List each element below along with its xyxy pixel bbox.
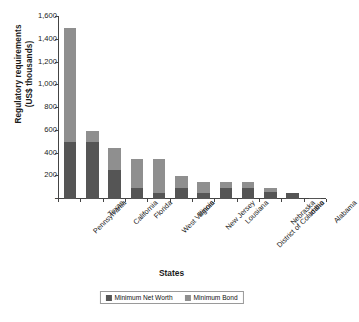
bar-segment-minimum-bond (153, 159, 165, 193)
bar-slot (59, 16, 81, 199)
bar-slot (104, 16, 126, 199)
bar-slot (237, 16, 259, 199)
bar-slot (170, 16, 192, 199)
bar-slot (282, 16, 304, 199)
y-axis-tick-label: - (23, 194, 57, 202)
y-axis-tick-label: 1,400 (23, 35, 57, 43)
bar-slot (148, 16, 170, 199)
bar-slot (259, 16, 281, 199)
y-axis-tickmark (55, 39, 58, 40)
bar-segment-minimum-net-worth (64, 142, 76, 199)
y-axis-tickmark (55, 130, 58, 131)
y-axis-tickmark (55, 62, 58, 63)
y-axis-tick-label: 1,200 (23, 58, 57, 66)
bar-stack[interactable] (242, 182, 254, 199)
bar-segment-minimum-net-worth (220, 188, 232, 199)
bar-slot (126, 16, 148, 199)
bar-stack[interactable] (86, 131, 98, 199)
bar-segment-minimum-net-worth (264, 192, 276, 199)
legend-item-label: Minimum Bond (194, 294, 238, 301)
chart-legend: Minimum Net WorthMinimum Bond (99, 291, 243, 304)
y-axis-tick-label: 800 (23, 103, 57, 111)
bar-stack[interactable] (197, 182, 209, 199)
x-axis-tickmark (326, 199, 327, 202)
y-axis-tick-label: 200 (23, 171, 57, 179)
bar-slot (81, 16, 103, 199)
legend-item[interactable]: Minimum Bond (185, 294, 238, 301)
y-axis-tick-label: 400 (23, 149, 57, 157)
bar-stack[interactable] (131, 159, 143, 199)
bar-segment-minimum-net-worth (175, 188, 187, 199)
bar-segment-minimum-bond (175, 176, 187, 187)
bar-segment-minimum-bond (108, 148, 120, 170)
bar-slot (193, 16, 215, 199)
y-axis-tickmark (55, 84, 58, 85)
bar-stack[interactable] (264, 188, 276, 199)
x-axis-title: States (0, 268, 343, 278)
plot-area (58, 16, 326, 199)
bar-stack[interactable] (220, 182, 232, 199)
bar-segment-minimum-net-worth (86, 142, 98, 199)
bar-segment-minimum-net-worth (108, 170, 120, 199)
bar-stack[interactable] (153, 159, 165, 199)
y-axis-tickmark (55, 175, 58, 176)
y-axis-tick-label: 1,600 (23, 12, 57, 20)
y-axis-tickmark (55, 153, 58, 154)
bar-stack[interactable] (175, 176, 187, 199)
y-axis-tickmark (55, 16, 58, 17)
bar-segment-minimum-bond (64, 28, 76, 142)
x-axis-category-label: Illinois (196, 199, 216, 219)
legend-item-label: Minimum Net Worth (114, 294, 172, 301)
bar-segment-minimum-bond (86, 131, 98, 142)
bar-slot (215, 16, 237, 199)
bar-segment-minimum-net-worth (131, 188, 143, 199)
bar-stack[interactable] (108, 148, 120, 199)
legend-item[interactable]: Minimum Net Worth (105, 294, 172, 301)
bar-stack[interactable] (64, 28, 76, 199)
y-axis-tick-label: 600 (23, 126, 57, 134)
y-axis-tick-label: 1,000 (23, 80, 57, 88)
y-axis-tick-labels: -2004006008001,0001,2001,4001,600 (17, 0, 57, 200)
bar-slot (304, 16, 326, 199)
legend-swatch-net-worth (105, 295, 111, 301)
x-axis-category-label: Alabama (333, 199, 359, 225)
x-axis-category-labels: PennsylvaniaTexasCaliforniaFloridaWest V… (58, 199, 326, 259)
bar-segment-minimum-net-worth (242, 188, 254, 199)
bar-segment-minimum-bond (131, 159, 143, 187)
bar-segment-minimum-bond (197, 182, 209, 193)
y-axis-tickmark (55, 107, 58, 108)
legend-swatch-bond (185, 295, 191, 301)
bar-series-container (59, 16, 326, 199)
